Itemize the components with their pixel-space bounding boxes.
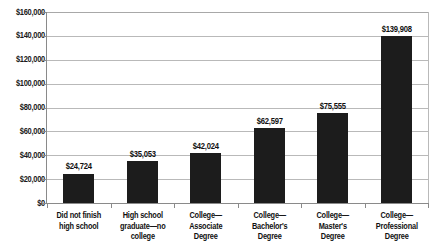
- x-axis-tick-mark: [111, 204, 112, 208]
- x-axis-tick-mark: [301, 204, 302, 208]
- x-axis-category-label-line: Degree: [173, 232, 239, 243]
- bar: [190, 153, 221, 203]
- x-axis-category-label: College—AssociateDegree: [173, 211, 239, 243]
- plot-right-border: [428, 12, 429, 204]
- x-axis-tick-mark: [174, 204, 175, 208]
- bar-chart: $160,000$140,000$120,000$100,000$80,000$…: [0, 0, 443, 249]
- x-axis-category-label-line: college: [109, 232, 175, 243]
- x-axis-category-label-line: graduate—no: [109, 222, 175, 233]
- x-axis-category-label-line: College—: [173, 211, 239, 222]
- bar-value-label: $24,724: [43, 162, 115, 171]
- x-axis-category-label: Did not finishhigh school: [46, 211, 112, 232]
- bar: [127, 161, 158, 203]
- x-axis-tick-mark: [365, 204, 366, 208]
- bar: [63, 174, 94, 204]
- x-axis-category-label: College—ProfessionalDegree: [363, 211, 429, 243]
- x-axis-tick-mark: [238, 204, 239, 208]
- x-axis-category-label-line: Associate: [173, 222, 239, 233]
- bar: [381, 36, 412, 203]
- x-axis-category-label-line: high school: [46, 222, 112, 233]
- y-axis-ticks: [0, 0, 47, 249]
- x-axis-category-label: High schoolgraduate—nocollege: [109, 211, 175, 243]
- x-axis-category-label: College—Master'sDegree: [300, 211, 366, 243]
- bar-value-label: $75,555: [297, 102, 369, 111]
- x-axis-category-label-line: High school: [109, 211, 175, 222]
- x-axis-category-label-line: Bachelor's: [236, 222, 302, 233]
- x-axis-category-label-line: Degree: [236, 232, 302, 243]
- x-axis-tick-mark: [47, 204, 48, 208]
- x-axis-tick-mark: [428, 204, 429, 208]
- bar: [317, 113, 348, 203]
- x-axis-category-label: College—Bachelor'sDegree: [236, 211, 302, 243]
- x-axis-category-label-line: Professional: [363, 222, 429, 233]
- bar-value-label: $62,597: [233, 117, 305, 126]
- x-axis-category-label-line: College—: [363, 211, 429, 222]
- bar: [254, 128, 285, 203]
- x-axis-category-label-line: College—: [300, 211, 366, 222]
- x-axis-category-label-line: Degree: [300, 232, 366, 243]
- bar-value-label: $35,053: [106, 150, 178, 159]
- bar-value-label: $42,024: [170, 142, 242, 151]
- x-axis-category-label-line: Master's: [300, 222, 366, 233]
- x-axis-category-label-line: Did not finish: [46, 211, 112, 222]
- x-axis-category-label-line: College—: [236, 211, 302, 222]
- bar-value-label: $139,908: [360, 25, 432, 34]
- x-axis-category-label-line: Degree: [363, 232, 429, 243]
